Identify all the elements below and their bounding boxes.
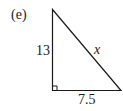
vertical-leg-label: 13: [36, 44, 50, 58]
right-angle-marker: [53, 86, 58, 91]
part-label: (e): [11, 8, 27, 22]
horizontal-leg-label: 7.5: [78, 93, 96, 107]
triangle-outline: [53, 10, 122, 91]
triangle-figure: (e) 13 x 7.5: [0, 0, 123, 111]
hypotenuse-label: x: [94, 43, 100, 57]
